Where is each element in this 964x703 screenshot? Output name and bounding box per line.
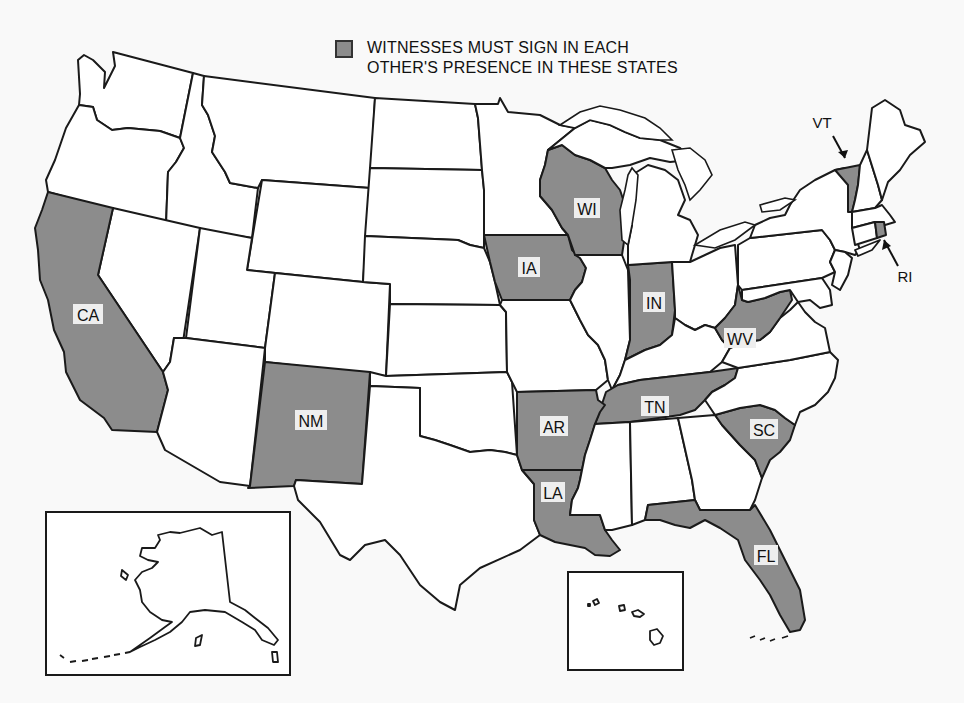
- hawaii-inset-frame: [568, 572, 683, 670]
- svg-text:TN: TN: [644, 399, 665, 416]
- legend-text: WITNESSES MUST SIGN IN EACH OTHER'S PRES…: [367, 38, 697, 78]
- svg-text:FL: FL: [757, 548, 776, 565]
- svg-text:WV: WV: [727, 331, 753, 348]
- state-mt[interactable]: [202, 76, 375, 188]
- state-az[interactable]: [157, 338, 265, 486]
- state-nd[interactable]: [370, 98, 482, 170]
- svg-text:IN: IN: [646, 295, 662, 312]
- label-in: IN: [643, 292, 665, 312]
- label-sc: SC: [750, 419, 778, 439]
- florida-keys: [750, 636, 788, 641]
- svg-text:IA: IA: [521, 260, 536, 277]
- state-co[interactable]: [265, 273, 390, 376]
- label-vt: VT: [812, 114, 831, 131]
- legend: WITNESSES MUST SIGN IN EACH OTHER'S PRES…: [335, 38, 697, 78]
- alaska-island-3: [272, 652, 278, 662]
- label-fl: FL: [754, 545, 778, 565]
- label-tn: TN: [641, 396, 669, 416]
- state-ri[interactable]: [875, 222, 886, 238]
- svg-text:SC: SC: [753, 422, 775, 439]
- label-nm: NM: [295, 410, 327, 430]
- us-map: CA NM IA WI IN WV TN AR LA SC FL VT: [0, 0, 964, 703]
- label-ca: CA: [73, 304, 103, 324]
- svg-text:LA: LA: [543, 485, 563, 502]
- state-nj[interactable]: [830, 250, 852, 290]
- arrowhead-vt: [838, 150, 848, 158]
- label-ar: AR: [540, 416, 568, 436]
- label-ia: IA: [518, 257, 540, 277]
- state-ks[interactable]: [386, 304, 507, 376]
- legend-line-1: WITNESSES MUST SIGN IN EACH: [367, 38, 697, 58]
- svg-text:NM: NM: [299, 413, 324, 430]
- legend-swatch: [335, 40, 353, 58]
- label-ri: RI: [898, 268, 913, 285]
- label-wv: WV: [724, 328, 756, 348]
- svg-text:AR: AR: [543, 419, 565, 436]
- legend-line-2: OTHER'S PRESENCE IN THESE STATES: [367, 58, 697, 78]
- svg-text:CA: CA: [77, 307, 100, 324]
- label-wi: WI: [574, 198, 600, 218]
- state-wy[interactable]: [247, 180, 370, 282]
- label-la: LA: [541, 482, 565, 502]
- svg-text:WI: WI: [577, 201, 597, 218]
